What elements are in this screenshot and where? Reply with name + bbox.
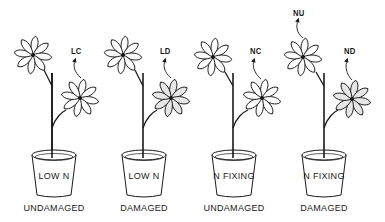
caption-4: DAMAGED: [284, 203, 364, 213]
arrow-icon: [297, 20, 303, 38]
pot-label-1: LOW N: [24, 171, 84, 181]
pot-label-3: N FIXING: [204, 171, 264, 181]
caption-3: UNDAMAGED: [194, 203, 274, 213]
caption-2: DAMAGED: [104, 203, 184, 213]
arrow-icon: [74, 60, 81, 78]
upper-whorl: [282, 36, 325, 79]
arrow-icon: [346, 60, 352, 80]
label-ld: LD: [160, 46, 171, 56]
caption-1: UNDAMAGED: [14, 203, 94, 213]
lower-whorl: [239, 75, 284, 120]
arrow-icon: [164, 60, 171, 78]
upper-whorl: [192, 36, 235, 79]
label-nc: NC: [250, 46, 261, 56]
lower-whorl-damaged: [329, 76, 374, 121]
lower-whorl: [57, 75, 102, 120]
pot-label-4: N FIXING: [294, 171, 354, 181]
label-nd: ND: [344, 46, 355, 56]
pot-label-2: LOW N: [114, 171, 174, 181]
label-lc: LC: [71, 46, 82, 56]
lower-whorl-damaged: [148, 75, 193, 120]
upper-whorl: [12, 34, 55, 77]
plants-illustration: [0, 0, 385, 222]
arrow-icon: [253, 60, 261, 79]
upper-whorl: [102, 34, 145, 77]
label-nu: NU: [293, 8, 304, 18]
